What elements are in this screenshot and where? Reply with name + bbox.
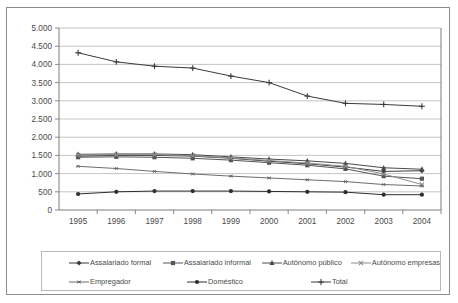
legend-item-autonomo-publico[interactable]: Autônomo público <box>261 256 350 269</box>
y-axis-tick-label: 3.000 <box>32 97 53 106</box>
legend-label: Total <box>332 275 348 288</box>
y-axis-tick-label: 1.000 <box>32 170 53 179</box>
y-axis-tick-label: 1.500 <box>32 151 53 160</box>
series-assalariado-formal <box>76 153 425 174</box>
y-axis-tick-label: 2.500 <box>32 115 53 124</box>
y-axis-tick-label: 4.500 <box>32 42 53 51</box>
legend-label: Assalariado formal <box>90 256 151 269</box>
x-axis-tick-label: 2003 <box>375 217 394 226</box>
y-axis-tick-label: 3.500 <box>32 79 53 88</box>
y-axis-tick-label: 0 <box>47 206 52 215</box>
triangle-marker-icon <box>261 257 283 269</box>
series-total <box>75 50 425 109</box>
y-axis-tick-label: 500 <box>38 188 52 197</box>
cross-marker-icon <box>350 257 372 269</box>
legend-label: Autônomo público <box>283 256 342 269</box>
series-dom-stico <box>76 189 424 197</box>
chart-legend: Assalariado formal Assalariado informal … <box>41 251 441 291</box>
x-axis-tick-label: 1998 <box>184 217 203 226</box>
x-axis-tick-label: 1997 <box>145 217 164 226</box>
x-axis-tick-label: 1996 <box>107 217 126 226</box>
x-axis-tick-label: 2004 <box>413 217 432 226</box>
legend-row: Empregador Doméstico Total <box>42 275 440 288</box>
line-chart: 5.0004.5004.0003.5003.0002.5002.0001.500… <box>7 8 451 248</box>
square-marker-icon <box>162 257 184 269</box>
x-axis-tick-label: 2000 <box>260 217 279 226</box>
chart-frame: 5.0004.5004.0003.5003.0002.5002.0001.500… <box>6 7 450 295</box>
y-axis-tick-label: 2.000 <box>32 133 53 142</box>
circle-marker-icon <box>186 276 208 288</box>
plus-marker-icon <box>310 276 332 288</box>
legend-row: Assalariado formal Assalariado informal … <box>42 256 440 269</box>
legend-item-autonomo-empresas[interactable]: Autônomo empresas <box>350 256 440 269</box>
legend-label: Doméstico <box>208 275 243 288</box>
legend-label: Empregador <box>90 275 131 288</box>
legend-label: Assalariado informal <box>184 256 251 269</box>
x-axis-tick-label: 1999 <box>222 217 241 226</box>
legend-item-domestico[interactable]: Doméstico <box>186 275 310 288</box>
x-axis-tick-label: 2001 <box>298 217 317 226</box>
plot-area: 5.0004.5004.0003.5003.0002.5002.0001.500… <box>7 8 451 248</box>
series-empregador <box>76 165 424 188</box>
diamond-marker-icon <box>68 257 90 269</box>
legend-item-total[interactable]: Total <box>310 275 422 288</box>
x-axis-tick-label: 1995 <box>69 217 88 226</box>
legend-item-assalariado-formal[interactable]: Assalariado formal <box>68 256 162 269</box>
x-axis-tick-label: 2002 <box>336 217 355 226</box>
legend-item-assalariado-informal[interactable]: Assalariado informal <box>162 256 261 269</box>
asterisk-marker-icon <box>68 276 90 288</box>
y-axis-tick-label: 4.000 <box>32 60 53 69</box>
legend-label: Autônomo empresas <box>372 256 440 269</box>
legend-item-empregador[interactable]: Empregador <box>68 275 186 288</box>
y-axis-tick-label: 5.000 <box>32 24 53 33</box>
